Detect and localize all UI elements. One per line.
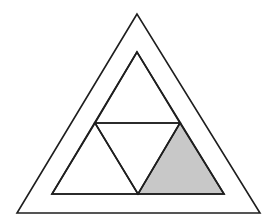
outer-triangle	[17, 14, 260, 213]
diagram-canvas	[0, 0, 277, 222]
nested-triangles-diagram	[0, 0, 277, 222]
